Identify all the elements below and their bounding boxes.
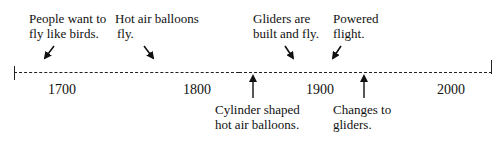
arrow-icon <box>333 46 341 58</box>
year-2000: 2000 <box>437 82 465 98</box>
year-1800: 1800 <box>183 82 211 98</box>
event-changes-to-gliders: Changes to gliders. <box>333 102 391 132</box>
arrow-icon <box>285 46 293 58</box>
arrow-icon <box>144 46 153 58</box>
arrow-icon <box>45 46 54 58</box>
event-cylinder-balloons: Cylinder shaped hot air balloons. <box>215 102 300 132</box>
year-1900: 1900 <box>306 82 334 98</box>
year-1700: 1700 <box>48 82 76 98</box>
